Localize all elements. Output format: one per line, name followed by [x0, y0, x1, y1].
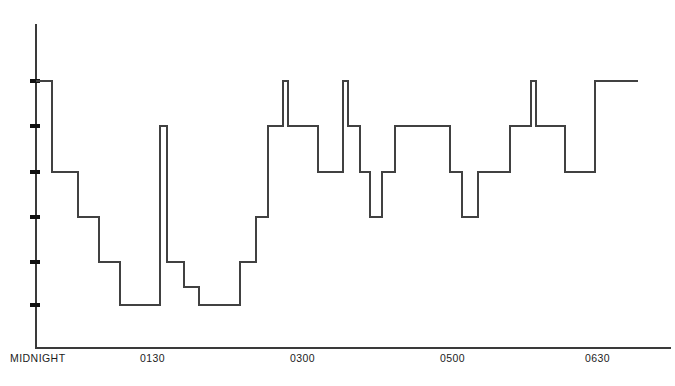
- axis-group: [36, 25, 670, 348]
- x-axis-tick-label-4: 0630: [585, 352, 610, 364]
- x-axis-tick-label-3: 0500: [440, 352, 465, 364]
- x-axis-tick-label-2: 0300: [290, 352, 315, 364]
- figure-caption-strip: [0, 374, 675, 386]
- series-group: [36, 81, 638, 305]
- step-trace: [36, 81, 638, 305]
- x-axis-tick-label-0: MIDNIGHT: [10, 352, 66, 364]
- chart-plot-area: [0, 0, 675, 386]
- x-axis-tick-label-1: 0130: [140, 352, 165, 364]
- axis-lines: [36, 25, 670, 348]
- hypnogram-chart: MIDNIGHT0130030005000630: [0, 0, 675, 386]
